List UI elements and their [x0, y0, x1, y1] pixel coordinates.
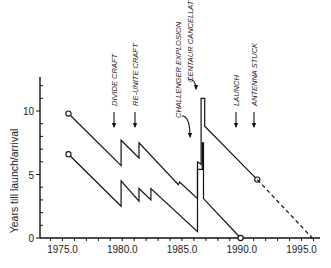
- annotation: LAUNCH: [232, 75, 241, 128]
- x-tick-label: 1995.0: [286, 244, 317, 255]
- y-tick-label: 10: [23, 106, 35, 117]
- annotation-label: LAUNCH: [232, 75, 241, 106]
- x-tick-label: 1975.0: [47, 244, 78, 255]
- annotation-label: DIVIDE CRAFT: [110, 52, 119, 106]
- data-point-marker: [66, 152, 71, 157]
- arrowhead-icon: [234, 123, 238, 128]
- arrowhead-icon: [252, 123, 256, 128]
- annotation-label: ANTENNA STUCK: [250, 42, 259, 107]
- chart: Years till launch/arrival 0510 1975.0198…: [0, 0, 331, 268]
- x-axis: 1975.01980.01985.01990.01995.0: [40, 238, 320, 255]
- series-line: [257, 180, 312, 238]
- arrowhead-icon: [133, 123, 137, 128]
- y-axis-label: Years till launch/arrival: [8, 129, 20, 234]
- annotation-label: CENTAUR CANCELLATION: [186, 0, 195, 82]
- annotation: CENTAUR CANCELLATION: [186, 0, 198, 90]
- plot-area: [66, 98, 312, 240]
- arrowhead-icon: [112, 123, 116, 128]
- y-axis: Years till launch/arrival 0510: [8, 77, 43, 244]
- data-point-marker: [66, 111, 71, 116]
- x-tick-label: 1990.0: [226, 244, 257, 255]
- y-tick-label: 5: [28, 170, 34, 181]
- annotation: DIVIDE CRAFT: [110, 52, 119, 128]
- annotations: DIVIDE CRAFTRE-UNITE CRAFTCHALLENGER EXP…: [110, 0, 259, 138]
- data-point-marker: [238, 235, 243, 240]
- x-tick-label: 1980.0: [107, 244, 138, 255]
- x-tick-label: 1985.0: [167, 244, 198, 255]
- y-tick-label: 0: [28, 233, 34, 244]
- annotation-label: RE-UNITE CRAFT: [131, 42, 140, 106]
- arrowhead-icon: [188, 133, 192, 138]
- series-line: [69, 143, 241, 238]
- series-line: [69, 98, 258, 198]
- annotation: RE-UNITE CRAFT: [131, 42, 140, 128]
- arrowhead-icon: [194, 85, 198, 90]
- annotation: ANTENNA STUCK: [250, 42, 259, 128]
- annotation-label: CHALLENGER EXPLOSION: [174, 21, 183, 118]
